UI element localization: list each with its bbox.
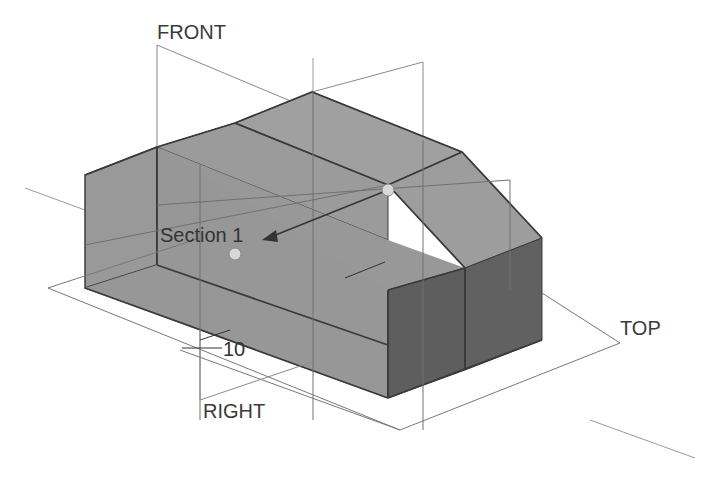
section-label[interactable]: Section 1 — [160, 225, 243, 245]
top-plane-label[interactable]: TOP — [620, 318, 661, 338]
drag-handle-top[interactable] — [382, 184, 394, 196]
drag-handle-left[interactable] — [229, 248, 241, 260]
solid-left-face[interactable] — [85, 147, 157, 288]
front-plane-label[interactable]: FRONT — [157, 22, 226, 42]
dimension-value[interactable]: 10 — [223, 339, 245, 359]
right-plane-label[interactable]: RIGHT — [203, 401, 265, 421]
model-viewport[interactable] — [0, 0, 711, 478]
